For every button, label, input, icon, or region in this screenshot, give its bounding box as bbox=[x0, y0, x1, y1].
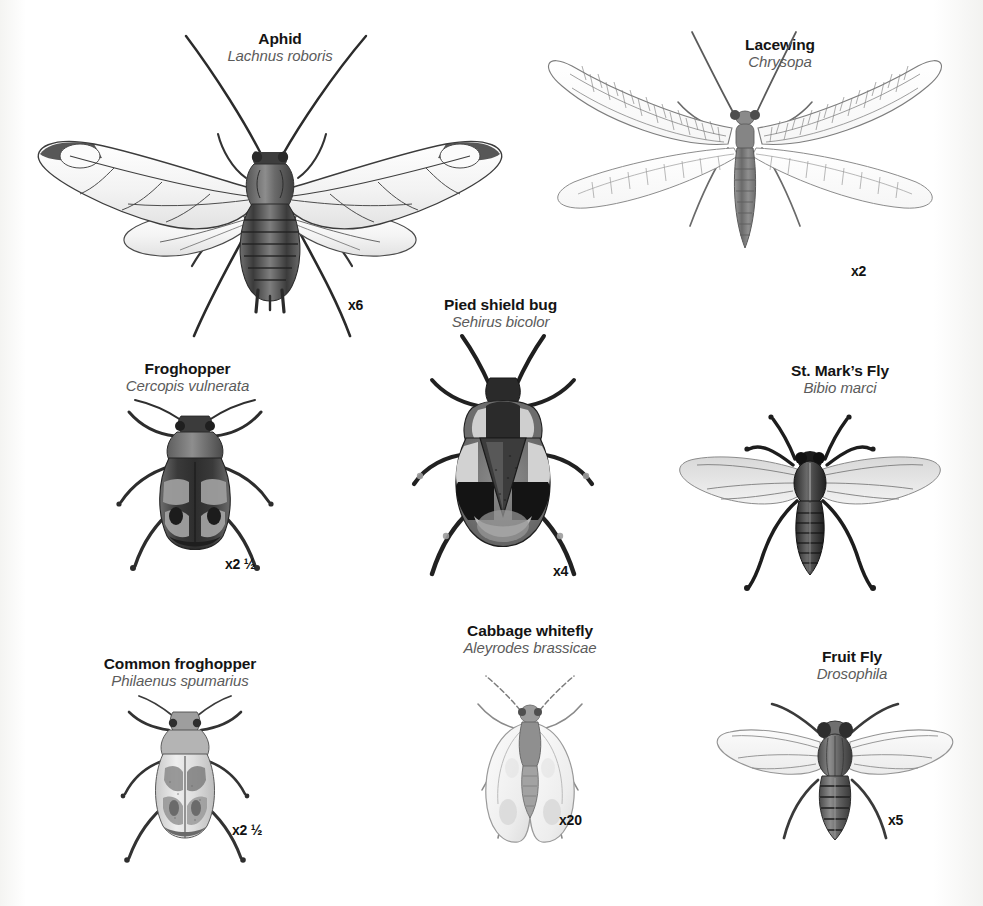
specimen-st-marks-fly: St. Mark’s Fly Bibio marci bbox=[715, 362, 965, 397]
whitefly-illustration bbox=[440, 672, 620, 857]
magnification-pied-shield-bug: x4 bbox=[553, 563, 568, 579]
magnification-common-froghopper: x2 ½ bbox=[232, 822, 262, 838]
latin-name-common-froghopper: Philaenus spumarius bbox=[40, 673, 320, 690]
specimen-fruit-fly: Fruit Fly Drosophila bbox=[727, 648, 977, 683]
shield-bug-illustration bbox=[390, 330, 615, 590]
aphid-winged-illustration bbox=[10, 28, 530, 338]
latin-name-st-marks-fly: Bibio marci bbox=[715, 380, 965, 397]
insect-plate: Aphid Lachnus roboris bbox=[0, 0, 983, 906]
caption-st-marks-fly: St. Mark’s Fly Bibio marci bbox=[715, 362, 965, 397]
common-froghopper-illustration bbox=[95, 690, 275, 870]
magnification-cabbage-whitefly: x20 bbox=[559, 812, 582, 828]
caption-fruit-fly: Fruit Fly Drosophila bbox=[727, 648, 977, 683]
common-name-pied-shield-bug: Pied shield bug bbox=[378, 296, 623, 313]
magnification-froghopper: x2 ½ bbox=[225, 556, 255, 572]
fruit-fly-illustration bbox=[700, 690, 970, 865]
caption-common-froghopper: Common froghopper Philaenus spumarius bbox=[40, 655, 320, 690]
common-name-froghopper: Froghopper bbox=[55, 360, 320, 377]
magnification-lacewing: x2 bbox=[851, 263, 866, 279]
lacewing-illustration bbox=[520, 30, 970, 300]
magnification-aphid: x6 bbox=[348, 297, 363, 313]
latin-name-fruit-fly: Drosophila bbox=[727, 666, 977, 683]
common-name-cabbage-whitefly: Cabbage whitefly bbox=[390, 622, 670, 639]
froghopper-illustration bbox=[95, 390, 295, 590]
common-name-st-marks-fly: St. Mark’s Fly bbox=[715, 362, 965, 379]
caption-pied-shield-bug: Pied shield bug Sehirus bicolor bbox=[378, 296, 623, 331]
specimen-common-froghopper: Common froghopper Philaenus spumarius bbox=[40, 655, 320, 690]
st-marks-fly-illustration bbox=[665, 405, 955, 595]
latin-name-cabbage-whitefly: Aleyrodes brassicae bbox=[390, 640, 670, 657]
caption-cabbage-whitefly: Cabbage whitefly Aleyrodes brassicae bbox=[390, 622, 670, 657]
common-name-fruit-fly: Fruit Fly bbox=[727, 648, 977, 665]
specimen-pied-shield-bug: Pied shield bug Sehirus bicolor bbox=[378, 296, 623, 331]
common-name-common-froghopper: Common froghopper bbox=[40, 655, 320, 672]
specimen-cabbage-whitefly: Cabbage whitefly Aleyrodes brassicae bbox=[390, 622, 670, 657]
latin-name-pied-shield-bug: Sehirus bicolor bbox=[378, 314, 623, 331]
magnification-fruit-fly: x5 bbox=[888, 812, 903, 828]
